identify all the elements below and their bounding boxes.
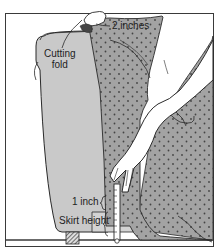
chair-leg (66, 232, 79, 244)
label-fold: fold (44, 59, 76, 70)
illustration-canvas (0, 0, 220, 252)
label-skirt-height: Skirt height (59, 215, 109, 226)
label-cutting: Cutting (44, 48, 76, 59)
label-cutting-fold: Cutting fold (44, 48, 76, 70)
label-one-inch: 1 inch (72, 196, 99, 207)
skirt-measuring-illustration: Cutting fold 2 inches 1 inch Skirt heigh… (0, 0, 220, 252)
label-two-inches: 2 inches (112, 20, 149, 31)
measuring-ruler (114, 184, 120, 243)
